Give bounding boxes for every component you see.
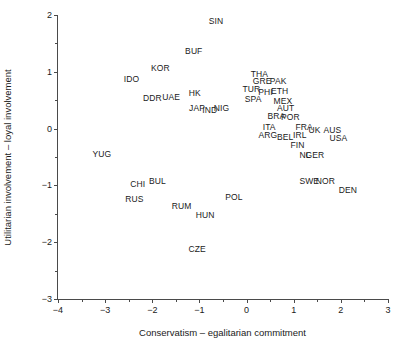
data-point-label: UAE <box>162 92 180 102</box>
data-point-label: DEN <box>339 185 357 195</box>
y-axis-minor-tick <box>55 43 58 44</box>
x-axis-tick-label: 1 <box>291 305 296 315</box>
data-point-label: RUS <box>125 194 143 204</box>
scatter-plot-figure: Utilitarian involvement – loyal involvem… <box>0 0 405 350</box>
data-point-label: SPA <box>245 94 262 104</box>
data-point-label: KOR <box>151 63 170 73</box>
data-point-label: CHI <box>130 179 145 189</box>
data-point-label: NOR <box>316 176 335 186</box>
x-axis-tick-label: 3 <box>385 305 390 315</box>
y-axis-tick <box>54 129 58 130</box>
x-axis-minor-tick <box>223 299 224 302</box>
y-axis-tick <box>54 242 58 243</box>
y-axis-tick-label: −3 <box>42 294 52 304</box>
x-axis-tick <box>247 299 248 303</box>
y-axis-tick <box>54 299 58 300</box>
data-point-label: UK <box>308 125 320 135</box>
y-axis-tick-label: −1 <box>42 180 52 190</box>
data-point-label: ETH <box>271 86 288 96</box>
y-axis-minor-tick <box>55 271 58 272</box>
x-axis-tick-label: 0 <box>244 305 249 315</box>
y-axis-minor-tick <box>55 100 58 101</box>
data-point-label: ARG <box>258 130 277 140</box>
y-axis-title: Utilitarian involvement – loyal involvem… <box>0 15 14 300</box>
data-point-label: HK <box>189 88 201 98</box>
x-axis-tick-label: −3 <box>100 305 110 315</box>
data-point-label: NIG <box>214 103 229 113</box>
data-point-label: PAK <box>270 76 287 86</box>
data-point-label: POR <box>281 112 300 122</box>
data-point-label: FIN <box>290 140 304 150</box>
x-axis-tick <box>294 299 295 303</box>
data-point-label: BUL <box>149 176 166 186</box>
y-axis-tick-label: −2 <box>42 237 52 247</box>
y-axis-tick <box>54 72 58 73</box>
x-axis-tick-label: −2 <box>147 305 157 315</box>
plot-area: −4−3−2−10123−3−2−1012SINBUFKORIDOTHAGREP… <box>57 15 388 300</box>
x-axis-tick <box>58 299 59 303</box>
y-axis-tick <box>54 15 58 16</box>
data-point-label: POL <box>225 192 242 202</box>
y-axis-tick-label: 2 <box>47 10 52 20</box>
y-axis-minor-tick <box>55 214 58 215</box>
x-axis-minor-tick <box>364 299 365 302</box>
x-axis-minor-tick <box>129 299 130 302</box>
x-axis-tick-label: −1 <box>194 305 204 315</box>
x-axis-minor-tick <box>82 299 83 302</box>
x-axis-tick-label: 2 <box>338 305 343 315</box>
data-point-label: YUG <box>92 149 111 159</box>
x-axis-tick <box>199 299 200 303</box>
y-axis-tick <box>54 185 58 186</box>
data-point-label: DDR <box>143 93 162 103</box>
data-point-label: RUM <box>172 201 192 211</box>
y-axis-minor-tick <box>55 157 58 158</box>
data-point-label: IDO <box>124 74 139 84</box>
x-axis-minor-tick <box>176 299 177 302</box>
data-point-label: CZE <box>188 244 205 254</box>
data-point-label: SIN <box>209 16 223 26</box>
data-point-label: HUN <box>196 210 215 220</box>
data-point-label: GER <box>306 150 325 160</box>
x-axis-title-text: Conservatism – egalitarian commitment <box>139 327 306 338</box>
y-axis-title-text: Utilitarian involvement – loyal involvem… <box>2 69 13 245</box>
x-axis-tick-label: −4 <box>53 305 63 315</box>
data-point-label: IRL <box>293 130 307 140</box>
x-axis-minor-tick <box>317 299 318 302</box>
x-axis-tick <box>105 299 106 303</box>
y-axis-tick-label: 0 <box>47 124 52 134</box>
x-axis-title: Conservatism – egalitarian commitment <box>57 327 388 338</box>
x-axis-tick <box>152 299 153 303</box>
x-axis-tick <box>341 299 342 303</box>
data-point-label: BUF <box>185 46 202 56</box>
x-axis-minor-tick <box>270 299 271 302</box>
x-axis-tick <box>388 299 389 303</box>
y-axis-tick-label: 1 <box>47 67 52 77</box>
data-point-label: USA <box>330 133 348 143</box>
